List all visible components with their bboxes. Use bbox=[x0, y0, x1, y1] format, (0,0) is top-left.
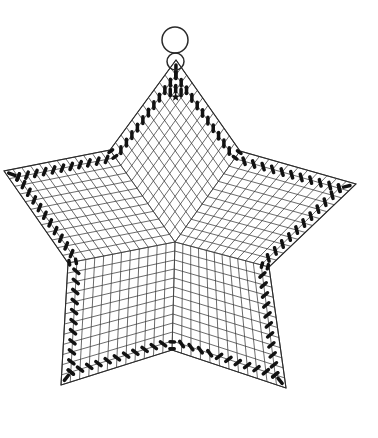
page: { "canvas": { "width": 378, "height": 43… bbox=[0, 0, 378, 438]
bead bbox=[275, 248, 277, 254]
bead bbox=[96, 362, 101, 366]
hanging-ring bbox=[162, 27, 188, 53]
bead bbox=[317, 206, 319, 212]
bead bbox=[72, 299, 77, 303]
bead bbox=[260, 273, 265, 277]
bead bbox=[272, 166, 274, 172]
bead bbox=[263, 370, 268, 374]
bead bbox=[72, 309, 77, 313]
bead bbox=[291, 172, 293, 178]
bead bbox=[70, 163, 72, 169]
bead bbox=[65, 243, 67, 249]
bead bbox=[52, 167, 54, 173]
bead bbox=[114, 356, 119, 360]
bead bbox=[70, 340, 75, 344]
bead bbox=[262, 164, 264, 170]
bead bbox=[266, 323, 271, 327]
bead bbox=[70, 251, 72, 257]
bead bbox=[331, 192, 333, 198]
bead bbox=[28, 189, 30, 195]
bead bbox=[17, 174, 19, 180]
bead bbox=[54, 228, 56, 234]
bead bbox=[9, 173, 15, 175]
bead bbox=[267, 265, 268, 269]
bead bbox=[64, 375, 68, 380]
bead bbox=[160, 342, 165, 346]
bead bbox=[70, 330, 75, 334]
bead-star-pattern-figure bbox=[0, 0, 378, 438]
bead bbox=[33, 197, 35, 203]
bead bbox=[243, 158, 245, 164]
bead bbox=[69, 261, 70, 265]
bead bbox=[198, 348, 202, 353]
bead bbox=[74, 269, 79, 273]
star-marker bbox=[171, 92, 180, 100]
bead bbox=[226, 357, 231, 361]
bead bbox=[26, 172, 28, 178]
bead bbox=[97, 158, 99, 164]
bead bbox=[208, 351, 212, 356]
bead bbox=[113, 156, 117, 159]
bead bbox=[73, 289, 78, 293]
bead bbox=[263, 293, 268, 297]
bead bbox=[22, 182, 24, 188]
bead bbox=[289, 234, 291, 240]
bead bbox=[105, 359, 110, 363]
bead bbox=[76, 259, 77, 263]
bead bbox=[271, 363, 276, 367]
bead bbox=[87, 364, 92, 368]
bead bbox=[49, 220, 51, 226]
star-point-mesh-west bbox=[4, 150, 175, 263]
bead bbox=[264, 303, 269, 307]
bead bbox=[38, 205, 40, 211]
bead bbox=[273, 373, 278, 377]
bead bbox=[267, 255, 269, 261]
bead bbox=[310, 177, 312, 183]
bead bbox=[44, 212, 46, 218]
bead bbox=[88, 160, 90, 166]
bead bbox=[282, 241, 284, 247]
bead bbox=[253, 161, 255, 167]
bead bbox=[133, 350, 138, 354]
bead bbox=[73, 279, 78, 283]
bead bbox=[268, 333, 273, 337]
bead bbox=[278, 378, 282, 383]
bead bbox=[79, 162, 81, 168]
bead bbox=[124, 353, 129, 357]
bead bbox=[69, 360, 74, 364]
bead bbox=[296, 227, 298, 233]
bead bbox=[261, 263, 262, 267]
bead bbox=[281, 169, 283, 175]
bead bbox=[235, 361, 240, 365]
bead bbox=[245, 364, 250, 368]
bead bbox=[265, 313, 270, 317]
bead bbox=[329, 182, 331, 188]
bead-star-chart-svg bbox=[0, 0, 378, 438]
bead bbox=[216, 354, 221, 358]
bead bbox=[344, 186, 350, 188]
bead bbox=[68, 370, 73, 374]
bead bbox=[35, 170, 37, 176]
bead bbox=[310, 213, 312, 219]
bead bbox=[142, 347, 147, 351]
bead bbox=[180, 341, 184, 346]
bead bbox=[270, 353, 275, 357]
bead bbox=[60, 235, 62, 241]
bead bbox=[319, 180, 321, 186]
bead bbox=[43, 169, 45, 175]
bead bbox=[105, 156, 107, 162]
bead bbox=[151, 345, 156, 349]
bead bbox=[324, 199, 326, 205]
bead bbox=[300, 174, 302, 180]
bead bbox=[338, 185, 340, 191]
bead bbox=[237, 151, 241, 154]
border-beads bbox=[9, 65, 350, 383]
bead bbox=[189, 344, 193, 349]
bead bbox=[61, 165, 63, 171]
bead bbox=[303, 220, 305, 226]
bead bbox=[71, 320, 76, 324]
bead bbox=[69, 350, 74, 354]
bead bbox=[109, 150, 113, 153]
bead bbox=[269, 343, 274, 347]
bead bbox=[254, 367, 259, 371]
